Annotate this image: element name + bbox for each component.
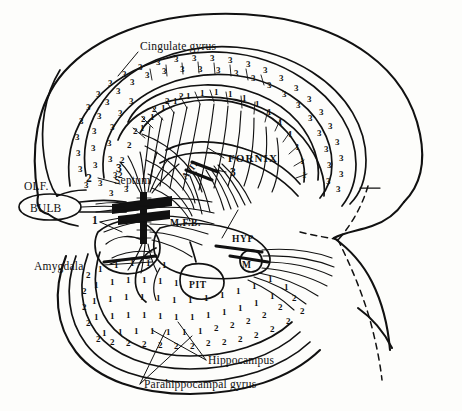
svg-text:3: 3 bbox=[317, 128, 322, 138]
svg-text:3: 3 bbox=[116, 86, 121, 96]
svg-text:1: 1 bbox=[118, 327, 123, 337]
svg-text:2: 2 bbox=[96, 334, 101, 344]
svg-text:2: 2 bbox=[206, 338, 211, 348]
svg-text:3: 3 bbox=[118, 108, 123, 118]
svg-text:1: 1 bbox=[162, 260, 167, 270]
svg-text:1: 1 bbox=[140, 123, 145, 133]
marker-three-septum: 3 bbox=[116, 162, 122, 174]
svg-text:1: 1 bbox=[134, 326, 139, 336]
svg-text:1: 1 bbox=[108, 294, 113, 304]
label-pit: PIT bbox=[189, 280, 207, 290]
svg-text:1: 1 bbox=[288, 129, 293, 139]
brain-outline-group bbox=[35, 14, 423, 380]
svg-text:3: 3 bbox=[145, 70, 150, 80]
svg-text:2: 2 bbox=[222, 337, 227, 347]
svg-text:1: 1 bbox=[110, 311, 115, 321]
brainstem-outline bbox=[334, 202, 404, 238]
frontal-inner-contour bbox=[43, 70, 60, 196]
cingulate-gyrus-region: 3 3 3 3 3 3 3 3 3 3 3 3 3 3 3 3 3 3 3 3 bbox=[69, 52, 356, 206]
svg-text:2: 2 bbox=[254, 330, 259, 340]
svg-text:1: 1 bbox=[188, 295, 193, 305]
svg-text:3: 3 bbox=[91, 143, 96, 153]
svg-text:2: 2 bbox=[82, 286, 87, 296]
svg-text:3: 3 bbox=[192, 53, 197, 63]
svg-text:3: 3 bbox=[138, 62, 143, 72]
svg-text:1: 1 bbox=[198, 326, 203, 336]
svg-text:3: 3 bbox=[108, 154, 113, 164]
svg-text:1: 1 bbox=[238, 303, 243, 313]
label-hyp: HYP bbox=[232, 234, 254, 244]
svg-text:3: 3 bbox=[105, 97, 110, 107]
svg-text:1: 1 bbox=[295, 142, 300, 152]
svg-text:3: 3 bbox=[328, 121, 333, 131]
hippocampal-band-region: 1 1 1 1 1 1 1 1 1 1 1 1 1 1 1 1 bbox=[128, 85, 318, 182]
temporal-lobe-edge bbox=[58, 256, 320, 394]
olfactory-tract-upper bbox=[80, 201, 126, 203]
svg-text:3: 3 bbox=[335, 137, 340, 147]
svg-text:1: 1 bbox=[98, 264, 103, 274]
svg-text:1: 1 bbox=[126, 310, 131, 320]
svg-text:2: 2 bbox=[278, 302, 283, 312]
svg-text:2: 2 bbox=[110, 337, 115, 347]
leader-parahippocampal-2 bbox=[140, 336, 192, 384]
svg-text:3: 3 bbox=[96, 89, 101, 99]
svg-text:3: 3 bbox=[78, 164, 83, 174]
svg-text:3: 3 bbox=[130, 77, 135, 87]
svg-text:1: 1 bbox=[220, 290, 225, 300]
svg-text:3: 3 bbox=[326, 176, 331, 186]
hippocampus-digit-field: 1 1 1 1 1 1 1 1 1 1 1 1 1 1 1 1 1 1 1 1 bbox=[92, 258, 289, 338]
svg-text:3: 3 bbox=[234, 68, 239, 78]
svg-text:3: 3 bbox=[307, 94, 312, 104]
label-septum: Septum bbox=[114, 174, 150, 187]
svg-text:2: 2 bbox=[133, 126, 138, 136]
svg-text:3: 3 bbox=[296, 100, 301, 110]
olfactory-tract-mid bbox=[82, 206, 124, 207]
svg-text:1: 1 bbox=[228, 89, 233, 99]
svg-text:3: 3 bbox=[79, 116, 84, 126]
svg-text:3: 3 bbox=[246, 59, 251, 69]
svg-text:1: 1 bbox=[174, 312, 179, 322]
svg-text:1: 1 bbox=[92, 296, 97, 306]
svg-text:2: 2 bbox=[127, 140, 132, 150]
svg-text:1: 1 bbox=[140, 292, 145, 302]
svg-text:3: 3 bbox=[129, 96, 134, 106]
svg-text:3: 3 bbox=[107, 138, 112, 148]
svg-text:1: 1 bbox=[204, 293, 209, 303]
svg-text:1: 1 bbox=[142, 275, 147, 285]
svg-text:2: 2 bbox=[142, 339, 147, 349]
label-olf: OLF. bbox=[24, 180, 48, 192]
svg-text:3: 3 bbox=[263, 65, 268, 75]
svg-text:3: 3 bbox=[210, 53, 215, 63]
svg-text:1: 1 bbox=[158, 311, 163, 321]
svg-text:1: 1 bbox=[114, 260, 119, 270]
svg-text:2: 2 bbox=[300, 306, 305, 316]
svg-text:3: 3 bbox=[75, 132, 80, 142]
section-dashed-hook bbox=[300, 232, 340, 240]
svg-text:1: 1 bbox=[166, 327, 171, 337]
svg-text:2: 2 bbox=[141, 114, 146, 124]
svg-text:1: 1 bbox=[172, 295, 177, 305]
bulb-top-attach bbox=[57, 190, 86, 196]
svg-text:3: 3 bbox=[108, 78, 113, 88]
svg-text:3: 3 bbox=[251, 73, 256, 83]
svg-text:3: 3 bbox=[110, 122, 115, 132]
svg-text:2: 2 bbox=[86, 270, 91, 280]
svg-text:3: 3 bbox=[174, 54, 179, 64]
svg-text:3: 3 bbox=[282, 89, 287, 99]
label-fornix: FORNIX bbox=[228, 152, 278, 164]
svg-text:1: 1 bbox=[186, 91, 191, 101]
svg-text:2: 2 bbox=[246, 316, 251, 326]
svg-text:1: 1 bbox=[236, 286, 241, 296]
svg-text:2: 2 bbox=[152, 104, 157, 114]
label-hippocampus: Hippocampus bbox=[208, 354, 274, 367]
marker-three-fornix: 3 bbox=[230, 166, 236, 178]
svg-text:2: 2 bbox=[262, 310, 267, 320]
label-m: M bbox=[242, 260, 252, 270]
figure-canvas: 3 3 3 3 3 3 3 3 3 3 3 3 3 3 3 3 3 3 3 3 bbox=[0, 0, 462, 411]
svg-text:2: 2 bbox=[179, 91, 184, 101]
svg-text:3: 3 bbox=[327, 160, 332, 170]
leader-cingulate bbox=[118, 52, 138, 76]
marker-one-amygdala: 1 bbox=[92, 214, 98, 226]
svg-text:2: 2 bbox=[82, 302, 87, 312]
svg-text:2: 2 bbox=[230, 320, 235, 330]
